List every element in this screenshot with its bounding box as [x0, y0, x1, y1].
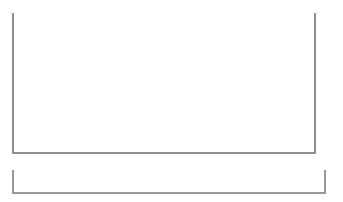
navigator-baseline: [12, 192, 326, 194]
y-axis-left-line: [12, 13, 14, 154]
chart-screenshot: [0, 0, 343, 202]
navigator-panel[interactable]: [0, 168, 343, 198]
navigator-handle-left[interactable]: [12, 170, 14, 194]
x-axis-line: [12, 152, 315, 154]
navigator-plot[interactable]: [12, 171, 326, 193]
main-chart-panel: [0, 0, 343, 166]
navigator-handle-right[interactable]: [324, 170, 326, 194]
y-axis-right-line: [314, 13, 316, 154]
navigator-area-series: [12, 171, 326, 193]
area-series-main: [12, 14, 315, 153]
